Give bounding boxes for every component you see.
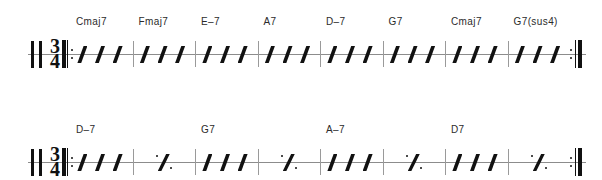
repeat-dot-upper	[570, 157, 572, 159]
beat-slash	[140, 46, 150, 63]
measure: G7(sus4)	[508, 8, 571, 78]
measure: E–7	[195, 8, 258, 78]
barline	[508, 149, 509, 175]
barline	[383, 41, 384, 67]
chord-chart-sheet: 34Cmaj7Fmaj7E–7A7D–7G7Cmaj7G7(sus4)34D–7…	[0, 0, 602, 180]
simile-dot-upper	[156, 155, 158, 157]
beat-slash	[202, 46, 212, 63]
chord-symbol: Cmaj7	[451, 16, 482, 27]
beat-slash	[488, 154, 498, 171]
repeat-thin-line	[67, 148, 68, 176]
simile-dot-lower	[545, 167, 547, 169]
time-signature-denominator: 4	[47, 54, 63, 69]
repeat-measure-icon	[405, 154, 423, 171]
beat-slash	[515, 46, 525, 63]
beat-slash	[327, 46, 337, 63]
measure: D–7	[70, 116, 133, 180]
beat-slash	[265, 46, 275, 63]
chord-symbol: D–7	[76, 124, 96, 135]
beat-slash	[470, 46, 480, 63]
repeat-thick-line	[62, 40, 66, 68]
barline	[320, 149, 321, 175]
chord-symbol: Fmaj7	[139, 16, 169, 27]
time-signature-denominator: 4	[47, 162, 63, 177]
rhythm-clef-bar-left	[31, 41, 34, 68]
barline	[320, 41, 321, 67]
measure	[133, 116, 196, 180]
simile-stroke	[533, 154, 545, 171]
chord-symbol: G7	[201, 124, 215, 135]
beat-slash	[533, 46, 543, 63]
beat-slash	[95, 46, 105, 63]
barline	[195, 149, 196, 175]
beat-slash	[175, 46, 185, 63]
simile-dot-lower	[295, 167, 297, 169]
beat-slash	[95, 154, 105, 171]
beat-slash	[363, 154, 373, 171]
beat-slash	[488, 46, 498, 63]
repeat-thin-line	[575, 148, 576, 176]
repeat-thin-line	[575, 40, 576, 68]
chord-symbol: E–7	[201, 16, 220, 27]
barline	[258, 149, 259, 175]
rhythm-clef-icon	[31, 41, 43, 68]
beat-slash	[345, 46, 355, 63]
repeat-thick-line	[62, 148, 66, 176]
beat-slash	[158, 46, 168, 63]
beat-slash	[220, 154, 230, 171]
beat-slash	[77, 154, 87, 171]
measure: Cmaj7	[445, 8, 508, 78]
measure: Fmaj7	[133, 8, 196, 78]
rhythm-clef-icon	[31, 149, 43, 176]
beat-slash	[390, 46, 400, 63]
beat-slash	[408, 46, 418, 63]
beat-slash	[470, 154, 480, 171]
end-repeat-barline	[570, 148, 584, 176]
barline	[195, 41, 196, 67]
beat-slash	[363, 46, 373, 63]
beat-slash	[550, 46, 560, 63]
measure: A7	[258, 8, 321, 78]
beat-slash	[238, 154, 248, 171]
time-signature: 34	[47, 147, 63, 179]
repeat-dot-lower	[570, 57, 572, 59]
staff-system-1: 34Cmaj7Fmaj7E–7A7D–7G7Cmaj7G7(sus4)	[0, 8, 602, 78]
repeat-thick-line	[578, 40, 582, 68]
chord-symbol: A–7	[326, 124, 345, 135]
rhythm-clef-bar-left	[31, 149, 34, 176]
beat-slash	[113, 46, 123, 63]
measure: D–7	[320, 8, 383, 78]
beat-slash	[220, 46, 230, 63]
beat-slash	[113, 154, 123, 171]
repeat-measure-icon	[280, 154, 298, 171]
chord-symbol: Cmaj7	[76, 16, 107, 27]
end-repeat-barline	[570, 40, 584, 68]
chord-symbol: G7(sus4)	[514, 16, 558, 27]
rhythm-clef-bar-right	[39, 41, 42, 68]
simile-dot-upper	[531, 155, 533, 157]
beat-slash	[283, 46, 293, 63]
barline	[258, 41, 259, 67]
simile-dot-lower	[420, 167, 422, 169]
chord-symbol: A7	[264, 16, 277, 27]
simile-dot-lower	[170, 167, 172, 169]
barline	[445, 149, 446, 175]
chord-symbol: G7	[389, 16, 403, 27]
measure: Cmaj7	[70, 8, 133, 78]
barline	[508, 41, 509, 67]
beat-slash	[345, 154, 355, 171]
simile-dot-upper	[281, 155, 283, 157]
beat-slash	[300, 46, 310, 63]
beat-slash	[202, 154, 212, 171]
simile-stroke	[158, 154, 170, 171]
repeat-measure-icon	[530, 154, 548, 171]
measure: D7	[445, 116, 508, 180]
repeat-thick-line	[578, 148, 582, 176]
beat-slash	[327, 154, 337, 171]
repeat-thin-line	[67, 40, 68, 68]
staff-system-2: 34D–7G7A–7D7	[0, 116, 602, 178]
measure	[258, 116, 321, 180]
measure	[508, 116, 571, 180]
measure	[383, 116, 446, 180]
rhythm-clef-bar-right	[39, 149, 42, 176]
